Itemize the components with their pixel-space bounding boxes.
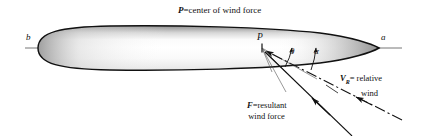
hull-horizontal-shading: [38, 26, 379, 70]
vr-leader-line: [326, 85, 338, 93]
center-of-wind-force-label: P: [257, 32, 263, 42]
diagram-canvas: [0, 0, 424, 136]
relative-wind-label: VR= relativewind: [340, 73, 382, 99]
angle-alpha-label: α: [314, 46, 319, 56]
f-equals-text: =resultant: [253, 100, 287, 110]
diagram-title: P=center of wind force: [178, 5, 261, 15]
f-line2: wind force: [247, 111, 287, 122]
resultant-force-label: F=resultantwind force: [247, 100, 287, 122]
bow-axis-label: a: [381, 32, 386, 42]
vr-line2: wind: [340, 88, 382, 99]
vr-equals-text: = relative: [350, 73, 382, 83]
angle-theta-label: θ: [290, 46, 294, 56]
resultant-force-midpoint-arrow: [312, 98, 330, 115]
stern-axis-label: b: [26, 32, 31, 42]
wind-force-diagram: P=center of wind force b a P θ α VR= rel…: [0, 0, 424, 136]
title-text: =center of wind force: [184, 5, 262, 15]
